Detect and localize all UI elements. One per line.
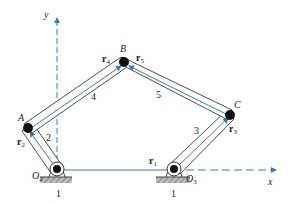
vector-label-r2: r2 [17,136,25,149]
joint-label-o3: O3 [186,173,197,186]
joint-o2 [50,162,64,176]
vector-label-r3: r3 [229,123,237,136]
five-bar-linkage-diagram: y x [0,0,293,204]
x-axis-label: x [267,176,273,187]
joint-label-c: C [234,99,241,110]
joint-a [23,123,33,133]
y-axis-label: y [43,9,49,20]
joint-label-o2: O2 [32,170,43,183]
ground-label-o2: 1 [56,188,61,199]
joint-b [119,57,129,67]
link-label-3: 3 [194,125,199,136]
link-label-4: 4 [91,91,96,102]
ground-label-o3: 1 [171,188,176,199]
vector-label-r4: r4 [102,53,110,66]
link-label-5: 5 [156,89,161,100]
link-label-2: 2 [46,132,51,143]
joint-label-a: A [17,112,25,123]
vector-label-r1: r1 [149,155,157,168]
link-5 [122,57,232,120]
joint-c [225,110,235,120]
link-4 [24,57,127,133]
vector-label-r5: r5 [136,52,144,65]
joint-o3 [167,162,181,176]
joint-label-b: B [120,43,126,54]
vector-r5 [129,66,228,115]
vector-r4 [31,66,121,128]
vector-r3 [176,118,228,168]
